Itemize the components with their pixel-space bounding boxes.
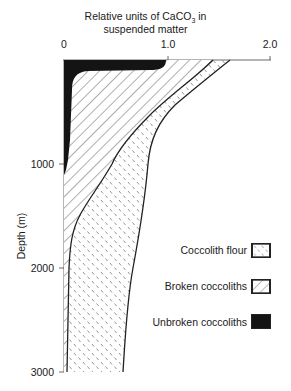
legend-label-unbroken: Unbroken coccoliths xyxy=(47,316,247,328)
legend-swatch-broken xyxy=(251,279,271,294)
legend-label-broken: Broken coccoliths xyxy=(47,280,247,292)
chart-plot xyxy=(0,0,291,391)
legend-swatch-unbroken xyxy=(251,314,271,329)
legend-swatch-flour xyxy=(251,243,271,258)
legend-label-flour: Coccolith flour xyxy=(47,244,247,256)
